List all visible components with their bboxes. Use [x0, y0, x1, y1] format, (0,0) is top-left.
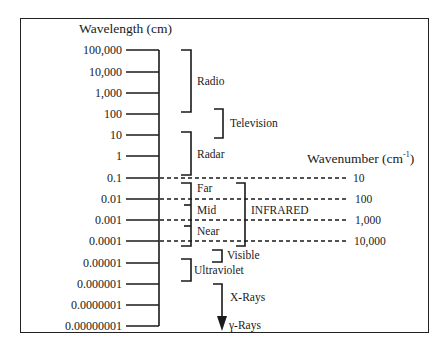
- label-television: Television: [230, 118, 278, 130]
- label-far-ir: Far: [197, 183, 212, 195]
- wavenumber-label: 10: [353, 173, 365, 185]
- label-ultraviolet: Ultraviolet: [194, 265, 244, 277]
- wavenumber-label: 10,000: [354, 236, 386, 248]
- diagram-lines: [0, 0, 446, 354]
- wavenumber-title-close: ): [410, 151, 415, 166]
- wavenumber-label: 1,000: [355, 215, 381, 227]
- wavenumber-title-superscript: -1: [403, 150, 410, 159]
- label-xrays: X-Rays: [230, 292, 265, 304]
- label-radio: Radio: [197, 76, 224, 88]
- wavenumber-label: 100: [355, 194, 372, 206]
- label-radar: Radar: [197, 149, 224, 161]
- label-gamma-rays: γ-Rays: [229, 320, 261, 332]
- wavenumber-title-text: Wavenumber (cm: [307, 151, 403, 166]
- label-mid-ir: Mid: [197, 205, 216, 217]
- label-infrared: INFRARED: [251, 205, 309, 217]
- label-near-ir: Near: [197, 226, 219, 238]
- label-visible: Visible: [227, 250, 260, 262]
- wavenumber-axis-title: Wavenumber (cm-1): [307, 151, 414, 165]
